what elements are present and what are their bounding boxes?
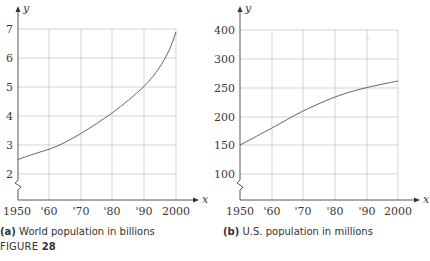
caption-a-panel: (a) <box>0 226 16 237</box>
x-tick-labels-b: 1950 '60 '70 '80 '90 2000 <box>226 205 412 218</box>
y-tick-labels-a: 7 6 5 4 3 2 <box>6 23 13 181</box>
svg-text:7: 7 <box>6 23 13 36</box>
svg-text:6: 6 <box>6 52 13 65</box>
svg-text:100: 100 <box>214 168 235 181</box>
svg-text:2000: 2000 <box>384 205 412 218</box>
caption-a: (a) World population in billions <box>0 226 155 237</box>
svg-text:400: 400 <box>214 24 235 37</box>
svg-text:300: 300 <box>214 53 235 66</box>
y-axis-label: y <box>244 2 252 15</box>
svg-text:1950: 1950 <box>226 205 254 218</box>
svg-text:150: 150 <box>214 139 235 152</box>
svg-text:'90: '90 <box>358 205 375 218</box>
svg-text:'80: '80 <box>326 205 343 218</box>
svg-text:'80: '80 <box>103 205 120 218</box>
axes-b <box>237 10 416 200</box>
y-tick-labels-b: 400 300 250 200 150 100 <box>214 24 235 181</box>
caption-b-text: U.S. population in millions <box>243 226 373 237</box>
stray-mark <box>367 37 368 38</box>
x-tick-labels-a: 1950 '60 '70 '80 '90 2000 <box>3 205 190 218</box>
svg-text:'90: '90 <box>135 205 152 218</box>
chart-world-population: y x 7 6 5 4 3 2 1950 '60 '70 '80 '90 200… <box>3 2 209 218</box>
svg-text:'70: '70 <box>294 205 311 218</box>
svg-text:'60: '60 <box>40 205 57 218</box>
y-axis-arrow-icon <box>16 6 21 12</box>
svg-text:1950: 1950 <box>3 205 31 218</box>
x-axis-label: x <box>202 193 209 206</box>
svg-text:'70: '70 <box>72 205 89 218</box>
svg-text:200: 200 <box>214 111 235 124</box>
us-population-curve <box>240 81 398 145</box>
y-axis-label: y <box>22 2 30 15</box>
svg-text:4: 4 <box>6 110 13 123</box>
svg-text:250: 250 <box>214 82 235 95</box>
svg-text:2000: 2000 <box>162 205 190 218</box>
x-axis-arrow-icon <box>193 198 199 203</box>
svg-text:5: 5 <box>6 81 13 94</box>
x-axis-label: x <box>423 193 430 206</box>
figure-28: y x 7 6 5 4 3 2 1950 '60 '70 '80 '90 200… <box>0 0 430 261</box>
grid-a <box>18 29 176 200</box>
figure-label-prefix: FIGURE <box>0 241 38 252</box>
grid-b <box>240 30 398 200</box>
svg-text:3: 3 <box>6 139 13 152</box>
caption-a-text: World population in billions <box>19 226 155 237</box>
world-population-curve <box>18 32 176 160</box>
chart-us-population: y x 400 300 250 200 150 100 1950 '60 '70… <box>214 2 430 218</box>
svg-text:'60: '60 <box>263 205 280 218</box>
svg-text:2: 2 <box>6 168 13 181</box>
y-axis-arrow-icon <box>238 6 243 12</box>
caption-b: (b) U.S. population in millions <box>223 226 373 237</box>
figure-label: FIGURE 28 <box>0 241 56 252</box>
axes-a <box>15 10 195 200</box>
caption-b-panel: (b) <box>223 226 239 237</box>
figure-label-number: 28 <box>42 241 56 252</box>
x-axis-arrow-icon <box>414 198 420 203</box>
